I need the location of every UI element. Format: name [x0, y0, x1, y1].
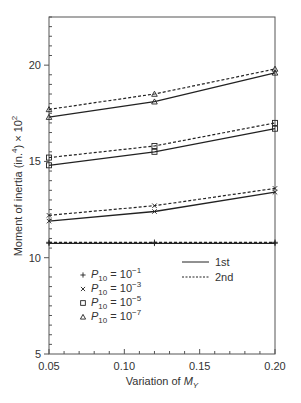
x-marker-icon — [81, 287, 85, 291]
x-tick-label: 0.20 — [264, 360, 285, 372]
plus-marker-icon — [46, 240, 52, 246]
dashed-line — [49, 69, 275, 109]
series-line — [47, 190, 277, 223]
legend-line-label: 2nd — [215, 271, 233, 283]
legend-line-label: 1st — [215, 256, 230, 268]
x-tick-label: 0.15 — [189, 360, 210, 372]
legend-item: P10 = 10−7 — [80, 308, 141, 325]
x-tick-label: 0.05 — [38, 360, 59, 372]
data-series — [46, 66, 278, 246]
x-axis-label: Variation of MY — [126, 375, 199, 390]
series-line — [46, 240, 278, 246]
y-axis-label: Moment of inertia (in.4) × 102 — [10, 115, 24, 256]
triangle-marker-icon — [80, 314, 85, 319]
solid-line — [49, 192, 275, 221]
legend-line-item: 1st — [182, 256, 230, 268]
square-marker-icon — [81, 301, 86, 306]
x-tick-label: 0.10 — [114, 360, 135, 372]
legend-line-item: 2nd — [182, 271, 233, 283]
dashed-line — [49, 123, 275, 158]
chart: 5101520 0.050.100.150.20 P10 = 10−1P10 =… — [0, 0, 301, 403]
solid-line — [49, 129, 275, 166]
x-axis-ticks: 0.050.100.150.20 — [38, 349, 285, 372]
y-tick-label: 20 — [29, 59, 41, 71]
y-tick-label: 10 — [29, 252, 41, 264]
series-line — [46, 240, 278, 246]
dashed-line — [49, 188, 275, 215]
series-line — [46, 70, 278, 119]
y-tick-label: 15 — [29, 155, 41, 167]
plus-marker-icon — [272, 240, 278, 246]
plus-marker-icon — [152, 240, 158, 246]
plot-border — [49, 17, 275, 354]
plus-marker-icon — [80, 272, 85, 277]
series-line — [46, 126, 277, 168]
series-line — [46, 66, 278, 111]
y-tick-label: 5 — [35, 348, 41, 360]
plot-frame — [49, 17, 275, 354]
legend: P10 = 10−1P10 = 10−3P10 = 10−5P10 = 10−7… — [80, 256, 233, 325]
series-line — [46, 120, 277, 160]
solid-line — [49, 73, 275, 117]
series-line — [47, 186, 277, 217]
